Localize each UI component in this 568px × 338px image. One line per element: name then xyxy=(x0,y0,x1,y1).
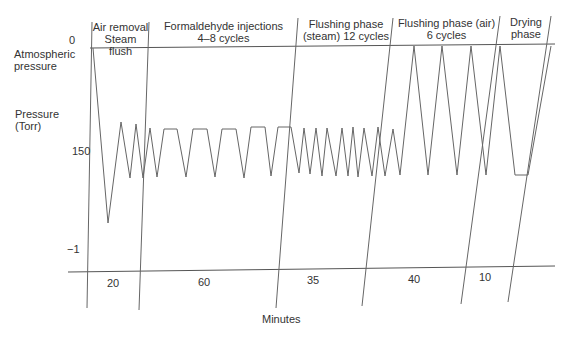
y-tick-150: 150 xyxy=(72,145,90,157)
phase-divider-3 xyxy=(362,18,393,306)
phase-title-air-removal: Air removal Steam flush xyxy=(92,21,149,57)
atmospheric-label-line1: Atmospheric xyxy=(14,48,75,60)
phase-title-flushing-steam: Flushing phase (steam) 12 cycles xyxy=(299,18,393,42)
phase-divider-0 xyxy=(87,22,92,308)
y-tick-minus1: −1 xyxy=(67,243,80,255)
pressure-axis-label: Pressure (Torr) xyxy=(15,108,59,132)
phase-divider-2 xyxy=(276,18,298,308)
phase-title-drying: Drying phase xyxy=(501,16,551,40)
y-tick-zero: 0 xyxy=(69,34,75,46)
phase-title-line1: Air removal xyxy=(92,21,149,33)
phase-title-line1: Flushing phase (air) xyxy=(393,17,500,29)
phase-divider-4 xyxy=(461,16,500,304)
phase-title-line2: 4–8 cycles xyxy=(150,32,297,44)
phase-duration-formaldehyde: 60 xyxy=(189,276,219,288)
phase-title-line1: Flushing phase xyxy=(299,18,393,30)
phase-title-line2: Steam flush xyxy=(92,33,149,57)
pressure-label-line2: (Torr) xyxy=(15,120,59,132)
phase-duration-flushing-air: 40 xyxy=(399,273,429,285)
phase-title-line1: Formaldehyde injections xyxy=(150,20,297,32)
phase-title-line1: Drying xyxy=(501,16,551,28)
phase-duration-drying: 10 xyxy=(470,271,500,283)
phase-title-flushing-air: Flushing phase (air) 6 cycles xyxy=(393,17,500,41)
phase-title-line2: (steam) 12 cycles xyxy=(299,30,393,42)
atmospheric-pressure-line xyxy=(90,44,555,48)
phase-title-line2: phase xyxy=(501,28,551,40)
sterilization-cycle-diagram xyxy=(0,0,568,338)
atmospheric-label-line2: pressure xyxy=(14,60,75,72)
atmospheric-pressure-label: Atmospheric pressure xyxy=(14,48,75,72)
x-axis-label: Minutes xyxy=(262,313,301,325)
phase-duration-air-removal: 20 xyxy=(98,277,128,289)
phase-duration-flushing-steam: 35 xyxy=(298,274,328,286)
phase-divider-5 xyxy=(508,16,551,302)
phase-divider-1 xyxy=(139,22,149,310)
pressure-waveform xyxy=(93,46,551,223)
pressure-label-line1: Pressure xyxy=(15,108,59,120)
phase-title-formaldehyde: Formaldehyde injections 4–8 cycles xyxy=(150,20,297,44)
phase-title-line2: 6 cycles xyxy=(393,29,500,41)
